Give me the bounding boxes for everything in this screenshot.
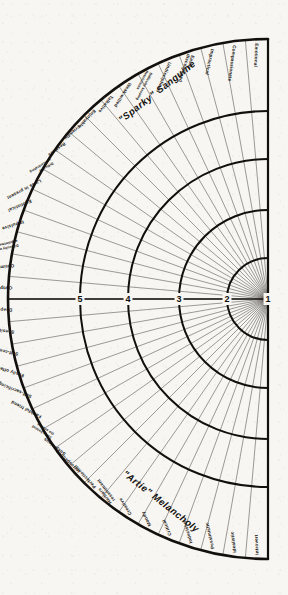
- segment-divider: [32, 299, 268, 409]
- segment-divider: [17, 232, 268, 299]
- segment-label: Outgoing: [0, 285, 12, 291]
- segment-label: Sensitive: [0, 327, 15, 335]
- axis-tick-3: 3: [175, 293, 184, 305]
- segment-divider: [201, 48, 268, 299]
- segment-divider: [158, 299, 268, 535]
- segment-label: Faithful friend: [10, 400, 42, 420]
- temperament-wheel-figure: OutgoingOptimisticDifficulty withappoint…: [0, 0, 288, 595]
- segment-label: Compassionate: [227, 45, 237, 82]
- wheel-segment: Lives in present: [6, 178, 42, 200]
- wheel-segment: Egotistical: [7, 199, 32, 213]
- axis-tick-5: 5: [76, 293, 85, 305]
- segment-label: Self-centered: [0, 345, 19, 357]
- wheel-segment: Weak-willed: [113, 82, 132, 108]
- segment-divider: [179, 55, 268, 299]
- wheel-segment: Pessimistic: [204, 521, 215, 549]
- segment-label: Impulsive: [1, 220, 25, 232]
- segment-label: Egotistical: [7, 199, 32, 213]
- wheel-segment: Moody: [140, 511, 152, 527]
- wheel-segment: Restless: [47, 141, 66, 158]
- axis-tick-1: 1: [264, 293, 273, 305]
- wheel-segment: Easily offended: [0, 362, 25, 378]
- axis-tick-label: 5: [77, 294, 82, 304]
- segment-label: Moody: [140, 511, 152, 527]
- melancholy-label: "Artie" Melancholy: [121, 468, 202, 535]
- segment-label: Weak-willed: [113, 82, 132, 108]
- wheel-segment: Outgoing: [0, 285, 12, 291]
- segment-label: Introvert: [254, 534, 260, 555]
- wheel-segment: Self-centered: [0, 345, 19, 357]
- segment-label: Restless: [47, 141, 66, 158]
- axis-tick-label: 3: [176, 294, 181, 304]
- wheel-segment: Deep feeling: [0, 306, 12, 312]
- wheel-segment: Difficulty withappointments: [0, 239, 19, 253]
- wheel-segment: Likes behindthe scenes: [31, 420, 55, 439]
- axis-tick-2: 2: [223, 293, 232, 305]
- axis-tick-4: 4: [124, 293, 133, 305]
- wheel-segment: Impulsive: [1, 220, 25, 232]
- segment-label: Optimistic: [0, 263, 15, 271]
- segment-divider: [43, 169, 268, 299]
- temperament-wheel-page: OutgoingOptimisticDifficulty withappoint…: [0, 0, 288, 595]
- segment-label: Emotional: [253, 43, 259, 67]
- wheel-segment: Sensitive: [0, 327, 15, 335]
- segment-divider: [17, 299, 268, 366]
- wheel-segment: Critical: [161, 519, 172, 537]
- segment-label: Pessimistic: [204, 521, 215, 549]
- segment-label: Easily offended: [0, 362, 25, 378]
- wheel-segment: Self-sacrificing: [0, 381, 32, 399]
- segment-label: Lives in present: [6, 178, 42, 200]
- wheel-axis-layer: 54321: [8, 293, 273, 305]
- segment-label: Self-sacrificing: [0, 381, 32, 399]
- segment-divider: [32, 189, 268, 299]
- wheel-segment: Optimistic: [0, 263, 15, 271]
- segment-divider: [138, 74, 268, 299]
- segment-divider: [43, 299, 268, 429]
- segment-label: Idealistic: [229, 531, 237, 553]
- segment-divider: [158, 63, 268, 299]
- segment-label: Impractical: [204, 49, 215, 76]
- segment-divider: [24, 299, 268, 388]
- wheel-segment: Emotional: [253, 43, 259, 67]
- segment-divider: [179, 299, 268, 543]
- axis-tick-label: 2: [224, 294, 229, 304]
- wheel-segment: Faithful friend: [10, 400, 42, 420]
- segment-label: Critical: [161, 519, 172, 537]
- wheel-segment: Difficultyconcentrating: [29, 157, 54, 177]
- wheel-segment: Impractical: [204, 49, 215, 76]
- segment-divider: [201, 299, 268, 550]
- axis-tick-label: 4: [125, 294, 130, 304]
- wheel-segment: Idealistic: [229, 531, 237, 553]
- segment-label: Deep feeling: [0, 306, 12, 312]
- segment-divider: [24, 210, 268, 299]
- wheel-segment: Compassionate: [227, 45, 237, 82]
- wheel-segment: Introvert: [254, 534, 260, 555]
- axis-tick-label: 1: [265, 294, 270, 304]
